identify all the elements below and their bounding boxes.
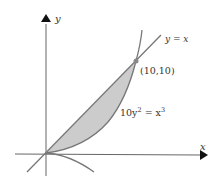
y-axis-label: y (54, 13, 61, 24)
diagram-canvas: y x y = x (10,10) 10y2 = x3 (0, 0, 221, 181)
curve-upper-branch (46, 30, 142, 153)
line-equation-label: y = x (164, 34, 188, 44)
intersection-point-label: (10,10) (140, 65, 175, 76)
curve-equation-label: 10y2 = x3 (120, 106, 165, 118)
x-axis-label: x (200, 141, 206, 152)
y-axis-arrow-icon (41, 14, 51, 22)
intersection-point-marker (134, 59, 139, 64)
line-y-equals-x (27, 35, 161, 172)
x-axis (15, 154, 200, 155)
curve-lower-branch (46, 153, 94, 172)
